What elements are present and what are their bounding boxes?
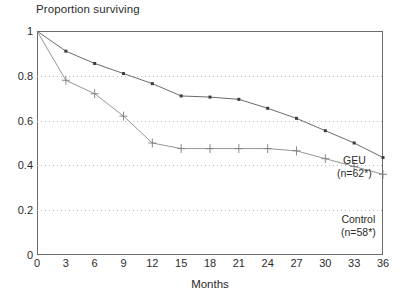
legend-label-geu-name: GEU	[337, 154, 372, 167]
x-tick-label-24: 24	[256, 257, 280, 269]
censor-mark	[235, 144, 243, 153]
censor-mark	[206, 144, 214, 153]
series-line-geu	[37, 31, 383, 158]
y-tick-label-0.6: 0.6	[0, 115, 33, 127]
data-point-marker	[180, 94, 183, 97]
censor-mark	[293, 146, 301, 155]
data-point-marker	[237, 98, 240, 101]
plot-area: 00.20.40.60.81 0369121518212427303336 GE…	[37, 31, 383, 255]
data-point-marker	[122, 72, 125, 75]
y-tick-label-1: 1	[0, 25, 33, 37]
survival-chart-figure: Proportion surviving 00.20.40.60.81 0369…	[0, 0, 403, 305]
x-tick-label-18: 18	[198, 257, 222, 269]
series-geu	[37, 31, 385, 159]
x-tick-label-15: 15	[169, 257, 193, 269]
series-lines	[37, 31, 383, 255]
data-point-marker	[93, 62, 96, 65]
y-tick-label-0.8: 0.8	[0, 70, 33, 82]
x-tick-label-3: 3	[54, 257, 78, 269]
data-point-marker	[353, 142, 356, 145]
x-tick-label-33: 33	[342, 257, 366, 269]
legend-label-control: Control (n=58*)	[341, 213, 376, 239]
data-point-marker	[266, 107, 269, 110]
data-point-marker	[382, 156, 385, 159]
legend-label-control-count: (n=58*)	[341, 226, 376, 239]
y-tick-label-0.2: 0.2	[0, 204, 33, 216]
legend-label-geu-count: (n=62*)	[337, 167, 372, 180]
legend-label-control-name: Control	[341, 213, 376, 226]
data-point-marker	[324, 129, 327, 132]
data-point-marker	[295, 117, 298, 120]
censor-mark	[264, 144, 272, 153]
legend-label-geu: GEU (n=62*)	[337, 154, 372, 180]
x-tick-label-9: 9	[112, 257, 136, 269]
censor-mark	[62, 76, 70, 85]
chart-title: Proportion surviving	[36, 3, 140, 15]
x-tick-label-27: 27	[285, 257, 309, 269]
data-point-marker	[151, 82, 154, 85]
x-tick-label-36: 36	[371, 257, 395, 269]
x-tick-label-0: 0	[25, 257, 49, 269]
y-tick-label-0.4: 0.4	[0, 159, 33, 171]
x-tick-label-6: 6	[83, 257, 107, 269]
censor-mark	[379, 170, 387, 179]
x-tick-label-12: 12	[140, 257, 164, 269]
data-point-marker	[64, 50, 67, 53]
x-axis-title: Months	[37, 278, 383, 290]
censor-mark	[177, 144, 185, 153]
series-control	[37, 31, 387, 179]
censor-mark	[321, 154, 329, 163]
censor-mark	[91, 89, 99, 98]
x-tick-label-21: 21	[227, 257, 251, 269]
x-tick-label-30: 30	[313, 257, 337, 269]
data-point-marker	[209, 96, 212, 99]
